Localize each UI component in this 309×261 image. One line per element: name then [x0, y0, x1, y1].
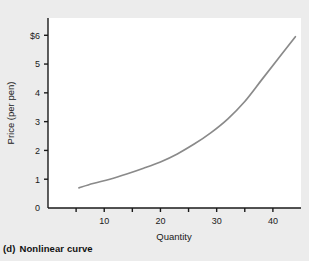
y-tick-label: $6 [30, 31, 40, 41]
figure-caption-letter: (d) [3, 243, 15, 254]
y-tick-label: 1 [35, 175, 40, 185]
x-axis-title: Quantity [156, 231, 192, 242]
y-tick-label: 4 [35, 88, 40, 98]
x-tick-label: 40 [268, 216, 278, 226]
x-tick-label: 20 [155, 216, 165, 226]
figure-caption: (d)Nonlinear curve [3, 243, 93, 254]
x-axis-tick-labels: 10203040 [99, 216, 278, 226]
y-axis-title: Price (per pen) [5, 82, 16, 145]
figure-panel: 012345$6 10203040 Quantity Price (per pe… [0, 0, 309, 261]
y-tick-label: 2 [35, 146, 40, 156]
y-axis-tick-labels: 012345$6 [30, 31, 40, 214]
x-tick-label: 10 [99, 216, 109, 226]
nonlinear-curve-chart: 012345$6 10203040 Quantity Price (per pe… [0, 0, 309, 261]
x-tick-label: 30 [212, 216, 222, 226]
figure-caption-text: Nonlinear curve [19, 243, 92, 254]
plot-area-background [48, 18, 301, 208]
y-tick-label: 5 [35, 59, 40, 69]
y-tick-label: 0 [35, 203, 40, 213]
y-tick-label: 3 [35, 117, 40, 127]
